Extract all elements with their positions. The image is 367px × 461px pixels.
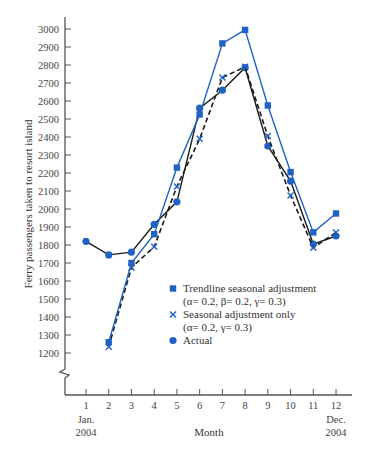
square-marker: [310, 229, 316, 235]
square-marker: [151, 231, 157, 237]
x-tick-label: 2: [106, 400, 111, 411]
y-tick-label: 1600: [38, 276, 59, 287]
y-tick-label: 2100: [38, 186, 59, 197]
y-tick-label: 2200: [38, 168, 59, 179]
x-sublabel-start: 2004: [76, 427, 98, 438]
chart: 1200130014001500160017001800190020002100…: [0, 0, 367, 461]
y-tick-label: 2600: [38, 96, 59, 107]
x-axis-title: Month: [194, 426, 224, 438]
circle-marker: [219, 87, 226, 94]
y-tick-label: 1400: [38, 312, 59, 323]
legend-item: Seasonal adjustment only(α= 0.2, γ= 0.3): [170, 308, 296, 334]
square-marker: [287, 169, 293, 175]
x-tick-label: 12: [331, 400, 342, 411]
y-tick-label: 1800: [38, 240, 59, 251]
circle-marker: [105, 251, 112, 258]
y-axis-title: Ferry passengers taken to resort island: [22, 119, 34, 288]
x-tick-label: 11: [308, 400, 318, 411]
y-tick-label: 1300: [38, 330, 59, 341]
y-tick-label: 2500: [38, 114, 59, 125]
circle-marker: [169, 337, 176, 344]
circle-marker: [82, 238, 89, 245]
series-circle: [82, 64, 339, 258]
x-marker: [288, 193, 294, 199]
square-marker: [174, 164, 180, 170]
y-tick-label: 3000: [38, 24, 59, 35]
x-marker: [174, 184, 180, 190]
square-marker: [106, 339, 112, 345]
legend: Trendline seasonal adjustment(α= 0.2, β=…: [169, 282, 316, 346]
legend-label: Actual: [183, 334, 212, 346]
square-marker: [128, 260, 134, 266]
y-axis-line: [60, 17, 69, 395]
y-axis: 1200130014001500160017001800190020002100…: [38, 17, 71, 395]
x-sublabel-end: 2004: [326, 427, 348, 438]
x-sublabel-end: Dec.: [326, 414, 346, 425]
square-marker: [242, 27, 248, 33]
legend-item: Actual: [169, 334, 212, 346]
x-sublabel-start: Jan.: [78, 414, 95, 425]
y-tick-label: 2300: [38, 150, 59, 161]
legend-item: Trendline seasonal adjustment(α= 0.2, β=…: [170, 282, 317, 308]
legend-label: Trendline seasonal adjustment: [183, 282, 316, 294]
series-line: [86, 68, 336, 255]
square-marker: [170, 285, 176, 291]
square-marker: [333, 210, 339, 216]
legend-params: (α= 0.2, β= 0.2, γ= 0.3): [183, 295, 286, 308]
circle-marker: [173, 198, 180, 205]
y-tick-label: 1500: [38, 294, 59, 305]
y-tick-label: 2900: [38, 42, 59, 53]
legend-label: Seasonal adjustment only: [183, 308, 296, 320]
x-tick-label: 3: [129, 400, 134, 411]
y-tick-label: 2400: [38, 132, 59, 143]
legend-params: (α= 0.2, γ= 0.3): [183, 321, 252, 334]
x-marker: [170, 312, 176, 318]
x-tick-label: 1: [83, 400, 88, 411]
x-tick-label: 4: [152, 400, 158, 411]
y-tick-label: 1200: [38, 348, 59, 359]
square-marker: [265, 102, 271, 108]
x-tick-label: 6: [197, 400, 202, 411]
x-tick-label: 10: [285, 400, 296, 411]
x-tick-label: 7: [220, 400, 225, 411]
y-tick-label: 1700: [38, 258, 59, 269]
y-tick-label: 2700: [38, 78, 59, 89]
square-marker: [196, 111, 202, 117]
x-marker: [219, 75, 225, 81]
square-marker: [219, 40, 225, 46]
y-tick-label: 1900: [38, 222, 59, 233]
x-tick-label: 9: [265, 400, 270, 411]
x-tick-label: 5: [174, 400, 179, 411]
circle-marker: [128, 249, 135, 256]
y-tick-label: 2800: [38, 60, 59, 71]
x-tick-label: 8: [242, 400, 247, 411]
y-tick-label: 2000: [38, 204, 59, 215]
